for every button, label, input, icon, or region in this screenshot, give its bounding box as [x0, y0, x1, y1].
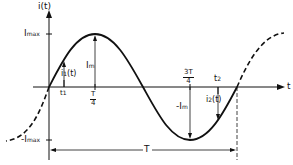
- neg-imax-label: -Imax: [21, 135, 40, 144]
- x-axis-arrow-icon: [277, 84, 285, 90]
- period-left-arrowhead-icon: [50, 148, 56, 152]
- neg-im-label: -Im: [176, 102, 188, 111]
- neg-im-arrow-icon: [188, 133, 192, 139]
- im-arrow-icon: [93, 35, 97, 41]
- imax-label: Imax: [24, 29, 40, 38]
- dashed-continuation-left: [6, 87, 49, 141]
- waveform-graphic: [0, 0, 293, 165]
- t1-label: t1: [60, 90, 67, 97]
- quarter-period-label: T 4: [90, 91, 96, 107]
- period-right-arrowhead-icon: [230, 148, 236, 152]
- t2-label: t2: [214, 75, 221, 83]
- i2-label: i2(t): [206, 96, 221, 104]
- sine-wave-diagram: i(t) t Imax -Imax Im -Im i1(t) i2(t) t1 …: [0, 0, 293, 165]
- y-axis-label: i(t): [38, 2, 51, 11]
- y-axis-arrow-icon: [46, 10, 52, 18]
- x-axis-label: t: [287, 82, 291, 91]
- im-label: Im: [86, 61, 95, 70]
- threequarter-period-label: 3T 4: [183, 69, 194, 85]
- period-label: T: [144, 145, 150, 154]
- i1-label: i1(t): [61, 70, 76, 78]
- dashed-continuation-right: [237, 33, 284, 87]
